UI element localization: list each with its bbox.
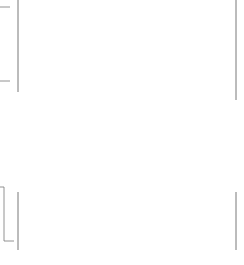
technical-drawing (0, 0, 244, 265)
extension-lines (18, 0, 236, 250)
left-reference-stubs (0, 7, 14, 241)
